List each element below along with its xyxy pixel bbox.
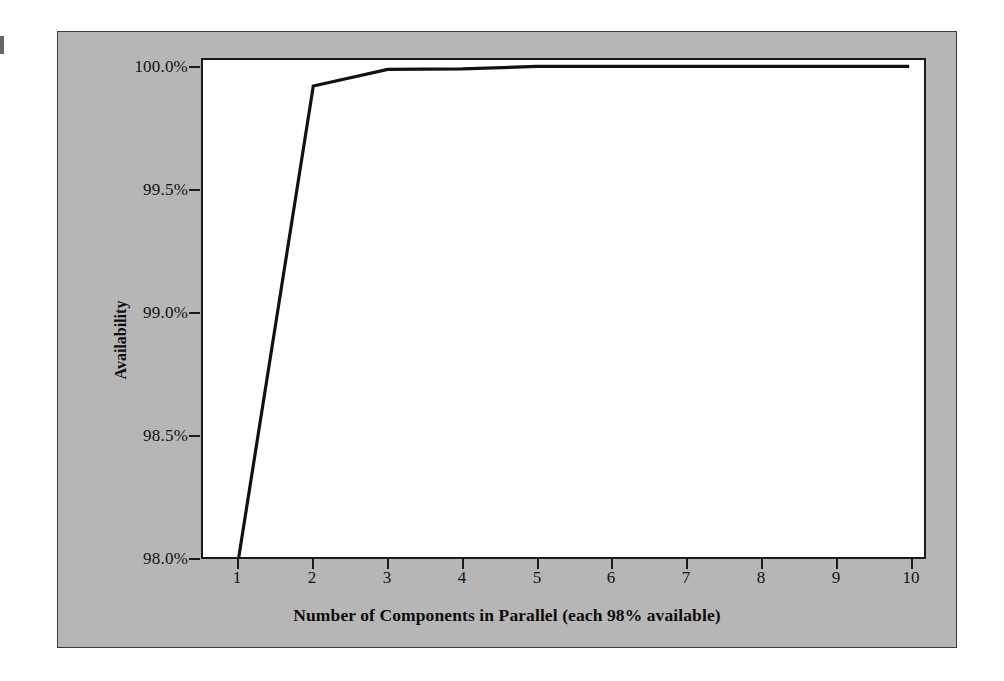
chart-frame: Availability 100.0% 99.5% 99.0% 98.5% 98… (57, 31, 957, 648)
x-tick-label-2: 2 (308, 568, 317, 588)
y-tick-label-99-0: 99.0% (143, 303, 188, 323)
x-tick-label-10: 10 (903, 568, 920, 588)
y-axis-ticks: 100.0% 99.5% 99.0% 98.5% 98.0% (58, 32, 188, 647)
y-tick-label-100-0: 100.0% (134, 57, 188, 77)
availability-line-chart (203, 60, 924, 557)
x-tick-label-1: 1 (233, 568, 242, 588)
y-tick-label-98-0: 98.0% (143, 549, 188, 569)
x-tick-label-8: 8 (757, 568, 766, 588)
x-tick-label-3: 3 (383, 568, 392, 588)
x-axis-title: Number of Components in Parallel (each 9… (58, 605, 956, 626)
y-tick-mark-98-5 (189, 435, 200, 437)
scan-artifact-mark (0, 36, 4, 54)
x-tick-label-4: 4 (458, 568, 467, 588)
y-tick-label-99-5: 99.5% (143, 180, 188, 200)
y-tick-mark-99-5 (189, 189, 200, 191)
y-tick-mark-99-0 (189, 312, 200, 314)
x-tick-label-7: 7 (682, 568, 691, 588)
y-tick-label-98-5: 98.5% (143, 426, 188, 446)
series-line-availability (239, 66, 909, 557)
x-tick-label-6: 6 (607, 568, 616, 588)
plot-area (201, 58, 926, 559)
figure-root: Availability 100.0% 99.5% 99.0% 98.5% 98… (0, 0, 1004, 681)
y-tick-mark-100-0 (189, 66, 200, 68)
y-tick-mark-98-0 (189, 558, 200, 560)
x-tick-label-9: 9 (832, 568, 841, 588)
x-tick-label-5: 5 (533, 568, 542, 588)
